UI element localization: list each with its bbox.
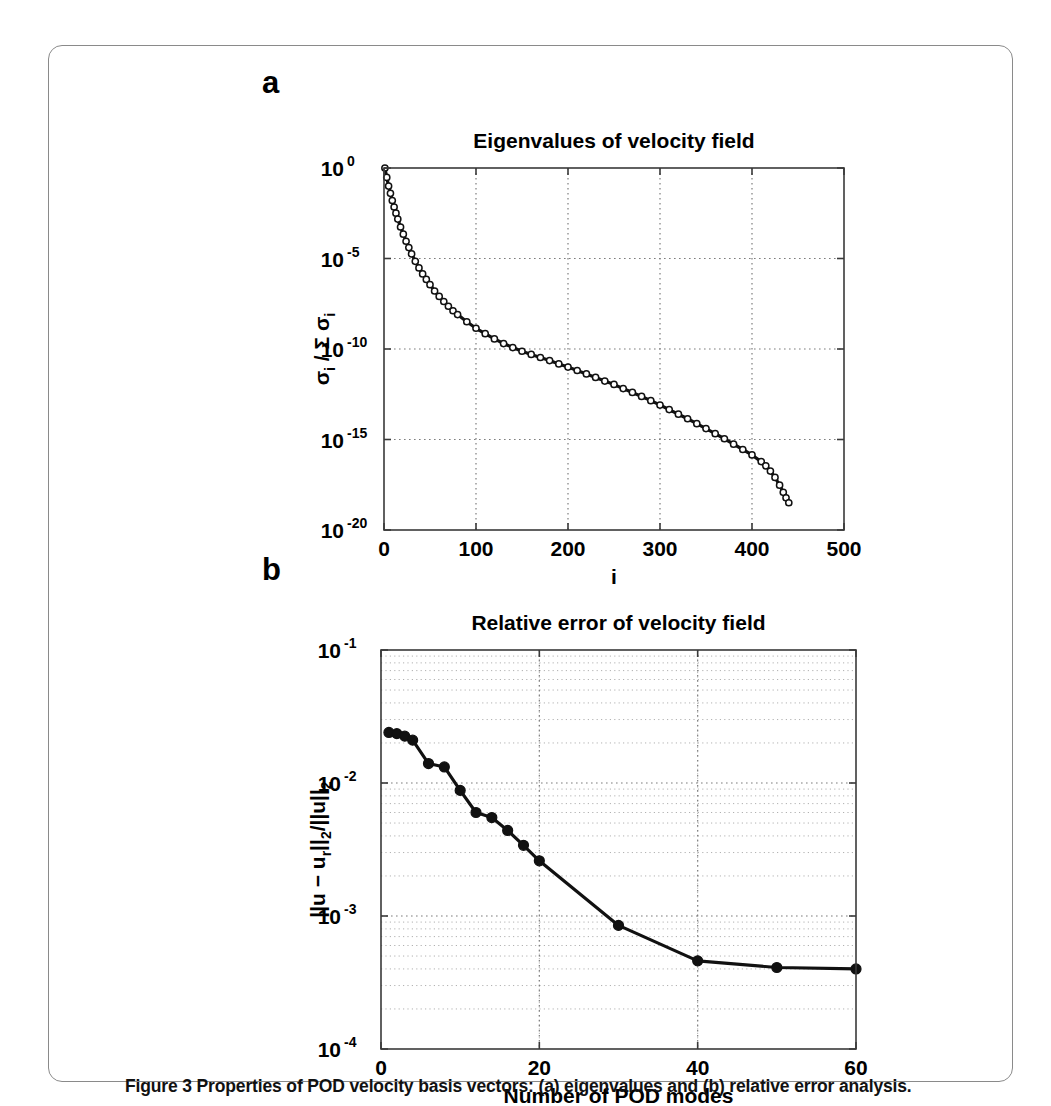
data-series-line — [389, 732, 856, 969]
data-point-marker — [786, 500, 792, 506]
data-point-marker — [565, 364, 571, 370]
data-point-marker — [409, 251, 415, 257]
y-tick-label: 10 — [321, 519, 344, 542]
data-point-marker — [528, 351, 534, 357]
data-point-marker — [519, 840, 529, 850]
data-point-marker — [740, 446, 746, 452]
y-axis-label: ||u − ur||2/||u||2 — [306, 781, 334, 918]
data-point-marker — [432, 288, 438, 294]
data-point-marker — [703, 426, 709, 432]
data-point-marker — [403, 238, 409, 244]
y-tick-label: 10 — [321, 429, 344, 452]
data-point-marker — [510, 344, 516, 350]
data-series-line — [385, 168, 789, 503]
data-point-marker — [556, 361, 562, 367]
plot-frame — [381, 650, 856, 1049]
panel-b-relative-error: b Relative error of velocity field10-110… — [49, 541, 1014, 1051]
data-point-marker — [657, 402, 663, 408]
data-point-marker — [611, 381, 617, 387]
data-point-marker — [491, 336, 497, 342]
data-point-marker — [389, 197, 395, 203]
data-point-marker — [693, 956, 703, 966]
y-tick-exponent: -1 — [344, 635, 357, 651]
data-point-marker — [666, 406, 672, 412]
y-tick-label: 10 — [318, 1038, 341, 1061]
y-tick-exponent: -5 — [347, 244, 360, 260]
data-point-marker — [487, 813, 497, 823]
data-point-marker — [519, 348, 525, 354]
data-point-marker — [534, 856, 544, 866]
data-point-marker — [629, 389, 635, 395]
y-tick-exponent: -3 — [344, 901, 357, 917]
data-point-marker — [763, 463, 769, 469]
y-tick-exponent: -15 — [347, 425, 367, 441]
data-point-marker — [424, 759, 434, 769]
data-point-marker — [675, 411, 681, 417]
y-tick-label: 10 — [321, 248, 344, 271]
data-point-marker — [387, 190, 393, 196]
data-point-marker — [694, 421, 700, 427]
y-tick-exponent: -2 — [344, 768, 357, 784]
data-point-marker — [482, 331, 488, 337]
y-tick-exponent: -10 — [347, 334, 367, 350]
panel-a-chart: Eigenvalues of velocity field10010-510-1… — [49, 46, 1014, 541]
data-point-marker — [712, 431, 718, 437]
data-point-marker — [731, 441, 737, 447]
data-point-marker — [602, 378, 608, 384]
y-tick-label: 10 — [318, 639, 341, 662]
y-tick-exponent: -20 — [347, 515, 367, 531]
data-point-marker — [386, 183, 392, 189]
data-point-marker — [439, 762, 449, 772]
y-tick-label: 10 — [321, 157, 344, 180]
data-point-marker — [416, 265, 422, 271]
data-point-marker — [772, 962, 782, 972]
y-tick-exponent: 0 — [347, 153, 355, 169]
data-point-marker — [721, 436, 727, 442]
data-point-marker — [455, 785, 465, 795]
data-point-marker — [777, 482, 783, 488]
y-axis-label-text: ||u − ur||2/||u||2 — [306, 781, 334, 918]
data-point-marker — [503, 825, 513, 835]
data-point-marker — [749, 452, 755, 458]
data-point-marker — [614, 920, 624, 930]
data-point-marker — [473, 325, 479, 331]
data-point-marker — [620, 385, 626, 391]
panel-b-chart: Relative error of velocity field10-110-2… — [49, 541, 1014, 1051]
data-point-marker — [501, 340, 507, 346]
figure-card: a Eigenvalues of velocity field10010-510… — [48, 45, 1013, 1082]
plot-title: Eigenvalues of velocity field — [473, 129, 754, 152]
plot-title: Relative error of velocity field — [471, 611, 765, 634]
data-point-marker — [772, 474, 778, 480]
data-point-marker — [639, 393, 645, 399]
data-point-marker — [427, 282, 433, 288]
data-point-marker — [583, 371, 589, 377]
y-tick-exponent: -4 — [344, 1034, 357, 1050]
data-point-marker — [471, 808, 481, 818]
data-point-marker — [406, 245, 412, 251]
data-point-marker — [408, 735, 418, 745]
data-point-marker — [767, 468, 773, 474]
data-point-marker — [391, 204, 397, 210]
data-point-marker — [397, 224, 403, 230]
data-point-marker — [574, 367, 580, 373]
panel-a-eigenvalues: a Eigenvalues of velocity field10010-510… — [49, 46, 1014, 541]
data-point-marker — [593, 374, 599, 380]
figure-caption: Figure 3 Properties of POD velocity basi… — [125, 1076, 1025, 1097]
data-point-marker — [395, 216, 401, 222]
data-point-marker — [455, 311, 461, 317]
data-point-marker — [547, 357, 553, 363]
data-point-marker — [412, 258, 418, 264]
data-point-marker — [400, 231, 406, 237]
data-point-marker — [685, 416, 691, 422]
data-point-marker — [537, 354, 543, 360]
data-point-marker — [464, 319, 470, 325]
data-point-marker — [648, 398, 654, 404]
